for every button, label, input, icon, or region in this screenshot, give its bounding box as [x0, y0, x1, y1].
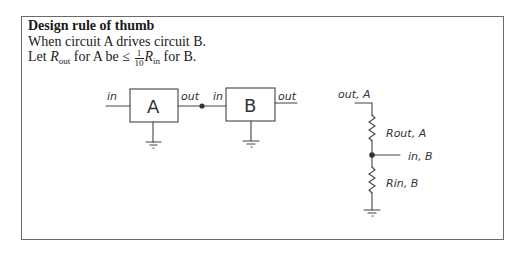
- r-out-a-label: Rout, A: [386, 127, 426, 140]
- block-a-in-label: in: [107, 90, 117, 103]
- block-b-label: B: [244, 95, 256, 116]
- junction-dot-ab: [199, 103, 204, 108]
- block-b-out-label: out: [278, 90, 297, 103]
- block-b-in-label: in: [213, 90, 223, 103]
- divider-top-label: out, A: [338, 88, 371, 101]
- r-in-b-label: Rin, B: [386, 177, 418, 190]
- divider-top-wire: [355, 103, 372, 115]
- resistor-icon-rin: [369, 167, 375, 193]
- junction-dot-divider: [369, 152, 375, 158]
- voltage-divider: [355, 103, 400, 216]
- resistor-icon-rout: [369, 115, 375, 141]
- ground-icon-b: [243, 141, 259, 147]
- circuit-diagrams: in A out in B out out, A Rout, A in, B R…: [0, 0, 521, 254]
- ground-icon-divider: [364, 210, 380, 216]
- ground-icon-a: [146, 142, 161, 148]
- block-a-label: A: [147, 96, 160, 117]
- block-a-out-label: out: [181, 90, 200, 103]
- block-a: [106, 89, 226, 148]
- in-b-label: in, B: [408, 150, 433, 163]
